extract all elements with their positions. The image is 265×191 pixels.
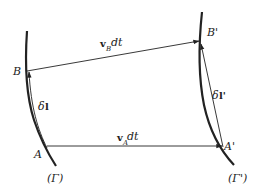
- label-vB-dt: v B dt: [99, 36, 123, 53]
- label-B-prime: B': [206, 26, 218, 39]
- label-gamma-prime: (Γ'): [228, 172, 247, 185]
- svg-text:dt: dt: [127, 130, 139, 143]
- svg-text:δ: δ: [38, 100, 45, 113]
- svg-text:l': l': [219, 90, 226, 101]
- label-gamma: (Γ): [47, 172, 63, 185]
- label-A-prime: A': [223, 140, 235, 153]
- label-delta-l-prime: δ l': [212, 89, 226, 102]
- label-B: B: [12, 65, 21, 78]
- svg-text:δ: δ: [212, 89, 219, 102]
- svg-text:dt: dt: [111, 36, 123, 49]
- material-line-displacement-diagram: B A B' A' (Γ) (Γ') v B dt v A dt δ l δ l…: [0, 0, 265, 191]
- label-vA-dt: v A dt: [116, 130, 139, 147]
- label-A: A: [33, 148, 42, 161]
- svg-text:l: l: [45, 101, 49, 112]
- label-delta-l: δ l: [38, 100, 49, 113]
